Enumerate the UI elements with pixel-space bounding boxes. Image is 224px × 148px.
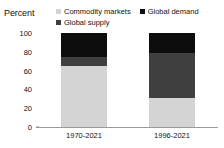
bar-1996-2021[interactable]: [149, 33, 195, 127]
x-axis-labels: 1970-20211996-2021: [40, 131, 216, 145]
bar-segment-commodity-markets[interactable]: [61, 66, 107, 127]
x-axis-tick-label: 1996-2021: [154, 131, 190, 140]
bar-segment-global-supply[interactable]: [61, 57, 107, 66]
y-axis: 100806040200: [0, 33, 36, 127]
y-axis-tick-label: 60: [24, 66, 32, 75]
x-axis-tick-label: 1970-2021: [66, 131, 102, 140]
legend-item-commodity-markets[interactable]: Commodity markets: [56, 7, 131, 16]
y-axis-tick-label: 100: [19, 29, 32, 38]
y-axis-tick-label: 40: [24, 85, 32, 94]
y-axis-tick-label: 20: [24, 104, 32, 113]
legend-item-global-supply[interactable]: Global supply: [56, 18, 109, 27]
legend-label-global-supply: Global supply: [64, 18, 109, 27]
bar-segment-global-demand[interactable]: [149, 33, 195, 53]
bar-1970-2021[interactable]: [61, 33, 107, 127]
legend-swatch-global-supply: [56, 20, 61, 25]
y-axis-tick-label: 0: [28, 123, 32, 132]
legend-label-commodity-markets: Commodity markets: [64, 7, 131, 16]
y-axis-tick-label: 80: [24, 47, 32, 56]
legend-label-global-demand: Global demand: [148, 7, 199, 16]
legend-swatch-global-demand: [140, 9, 145, 14]
bar-segment-global-supply[interactable]: [149, 53, 195, 98]
plot-area: [40, 33, 216, 127]
x-axis-baseline: [36, 127, 218, 128]
stacked-bar-chart: Percent Commodity markets Global demand …: [0, 0, 224, 148]
legend-item-global-demand[interactable]: Global demand: [140, 7, 199, 16]
bar-segment-global-demand[interactable]: [61, 33, 107, 57]
chart-legend: Commodity markets Global demand Global s…: [56, 7, 224, 29]
y-axis-title: Percent: [4, 8, 34, 18]
legend-swatch-commodity-markets: [56, 9, 61, 14]
bar-segment-commodity-markets[interactable]: [149, 98, 195, 127]
y-axis-zero-tick: [36, 127, 39, 128]
